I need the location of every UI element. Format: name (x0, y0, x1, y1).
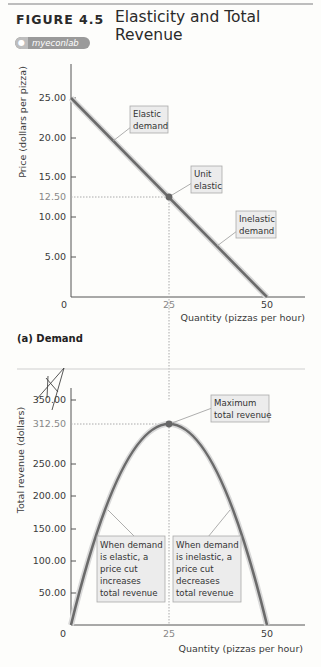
x-axis-label: Quantity (pizzas per hour) (181, 312, 305, 323)
ann-max-2: total revenue (214, 410, 272, 420)
ytick-100: 100.00 (33, 555, 66, 566)
ann-inel-4: decreases (176, 576, 220, 586)
ann-unit-2: elastic (194, 181, 222, 191)
y-axis-label: Price (dollars per pizza) (17, 66, 28, 178)
ann-inel-1: When demand (176, 540, 239, 550)
ytick-12-5: 12.50 (39, 191, 66, 202)
ytick-20: 20.00 (39, 132, 66, 143)
unit-elastic-point (166, 194, 173, 201)
ytick-50: 50.00 (39, 587, 66, 598)
ann-inel-5: total revenue (176, 588, 234, 598)
xtick-0: 0 (61, 299, 67, 310)
ann-el-1: When demand (100, 540, 163, 550)
ann-unit-1: Unit (194, 169, 212, 179)
ytick-15: 15.00 (39, 171, 66, 182)
ytick-25: 25.00 (39, 92, 66, 103)
y-axis-label-b: Total revenue (dollars) (15, 407, 26, 514)
xtick-0-b: 0 (60, 628, 66, 639)
ann-inel-3: price cut (176, 564, 214, 574)
ytick-350: 350.00 (33, 394, 66, 405)
xtick-50-b: 50 (261, 628, 273, 639)
ann-el-3: price cut (100, 564, 138, 574)
xtick-25-b: 25 (163, 628, 175, 639)
ann-max-1: Maximum (214, 398, 256, 408)
xtick-50: 50 (261, 299, 273, 310)
ytick-312-5: 312.50 (33, 418, 66, 429)
panel-a-demand: 25.00 20.00 15.00 12.50 10.00 5.00 0 25 … (17, 64, 305, 400)
ann-elastic-2: demand (133, 121, 168, 131)
ann-el-4: increases (100, 576, 141, 586)
panel-b-total-revenue: 350.00 312.50 250.00 200.00 150.00 100.0… (15, 368, 305, 654)
ann-el-5: total revenue (100, 588, 158, 598)
ytick-10: 10.00 (39, 211, 66, 222)
ytick-250: 250.00 (33, 458, 66, 469)
max-revenue-point (166, 421, 173, 428)
ann-elastic-1: Elastic (133, 109, 161, 119)
x-axis-label-b: Quantity (pizzas per hour) (179, 643, 303, 654)
ann-el-2: is elastic, a (100, 552, 148, 562)
panel-a-caption: (a) Demand (17, 333, 83, 344)
ann-inelastic-1: Inelastic (239, 214, 275, 224)
ytick-150: 150.00 (33, 523, 66, 534)
ann-inelastic-2: demand (239, 226, 274, 236)
ytick-200: 200.00 (33, 490, 66, 501)
ytick-5: 5.00 (45, 251, 66, 262)
ann-inel-2: is inelastic, a (176, 552, 232, 562)
